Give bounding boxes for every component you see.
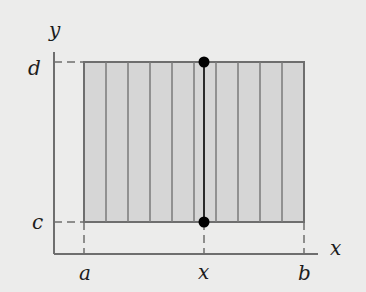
region-diagram: [0, 0, 366, 292]
a-label: a: [79, 263, 91, 283]
diagram-canvas: y d c a x b x: [0, 0, 366, 292]
c-label: c: [32, 212, 43, 232]
y-axis-label: y: [49, 20, 60, 40]
d-label: d: [28, 58, 41, 78]
x-axis-label: x: [330, 238, 341, 258]
top-point: [199, 57, 210, 68]
x-tick-label: x: [198, 262, 209, 282]
bottom-point: [199, 217, 210, 228]
b-label: b: [298, 263, 311, 283]
